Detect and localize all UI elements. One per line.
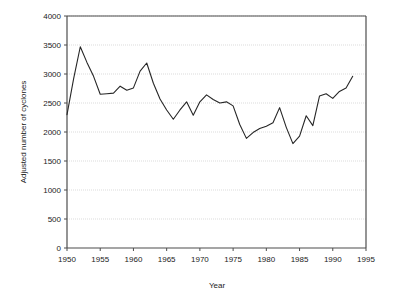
x-tick-label: 1980 [257, 255, 275, 264]
x-tick-label: 1990 [324, 255, 342, 264]
y-tick-label: 1000 [43, 186, 61, 195]
y-axis-title: Adjusted number of cyclones [19, 81, 28, 184]
x-tick-label: 1955 [91, 255, 109, 264]
x-tick-label: 1965 [158, 255, 176, 264]
x-tick-label: 1975 [224, 255, 242, 264]
x-tick-label: 1995 [357, 255, 375, 264]
y-tick-label: 2000 [43, 128, 61, 137]
y-tick-label: 500 [48, 215, 62, 224]
chart-svg: 05001000150020002500300035004000 1950195… [0, 0, 396, 301]
x-axis-title: Year [209, 281, 226, 290]
y-tick-label: 2500 [43, 99, 61, 108]
x-tick-label: 1985 [291, 255, 309, 264]
x-tick-label: 1970 [191, 255, 209, 264]
cyclone-line-chart-figure: 05001000150020002500300035004000 1950195… [0, 0, 396, 301]
y-tick-label: 4000 [43, 12, 61, 21]
x-tick-label: 1960 [125, 255, 143, 264]
y-tick-label: 3000 [43, 70, 61, 79]
y-tick-label: 3500 [43, 41, 61, 50]
y-tick-label: 0 [57, 244, 62, 253]
y-tick-label: 1500 [43, 157, 61, 166]
x-tick-label: 1950 [58, 255, 76, 264]
